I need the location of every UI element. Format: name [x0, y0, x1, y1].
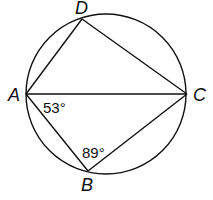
segment-DC	[82, 19, 187, 94]
point-label-B: B	[81, 175, 93, 195]
angle-label-B: 89°	[82, 144, 105, 161]
angle-label-A: 53°	[43, 99, 66, 116]
segment-AD	[26, 19, 82, 94]
point-label-C: C	[193, 85, 207, 105]
point-label-A: A	[7, 85, 20, 105]
inscribed-quadrilateral-diagram: D A C B 53° 89°	[0, 0, 213, 200]
point-label-D: D	[75, 0, 88, 18]
